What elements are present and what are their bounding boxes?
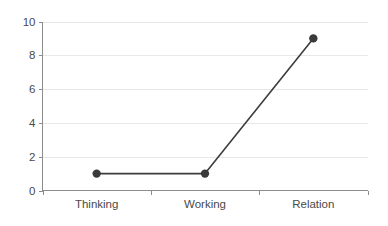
y-tick-label-10: 10: [23, 16, 36, 28]
y-tick-label-0: 0: [29, 185, 35, 197]
data-point-thinking: [92, 169, 100, 177]
x-tick-label-relation: Relation: [292, 198, 334, 210]
chart-canvas: 1086420 ThinkingWorkingRelation: [0, 0, 388, 226]
data-point-relation: [309, 34, 317, 42]
x-tick-label-working: Working: [184, 198, 226, 210]
y-tick-label-2: 2: [29, 151, 35, 163]
y-tick-label-8: 8: [29, 49, 35, 61]
line-chart: 1086420 ThinkingWorkingRelation: [0, 0, 388, 226]
x-tick-labels: ThinkingWorkingRelation: [75, 198, 335, 210]
y-tick-label-4: 4: [29, 117, 36, 129]
x-tick-label-thinking: Thinking: [75, 198, 118, 210]
chart-background: [0, 0, 388, 226]
y-tick-label-6: 6: [29, 83, 35, 95]
data-point-working: [201, 169, 209, 177]
